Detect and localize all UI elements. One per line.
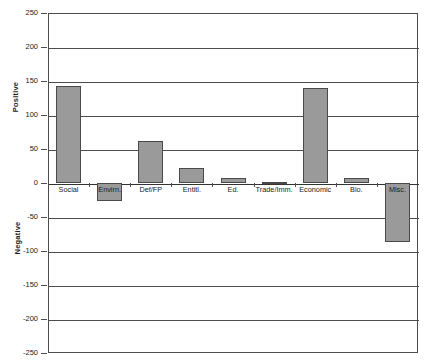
y-tick-label: -250: [0, 349, 38, 357]
x-tick-mark: [377, 183, 378, 187]
gridline: [49, 286, 419, 287]
category-label: Def/FP: [139, 185, 162, 194]
y-tick-label: 250: [0, 9, 38, 17]
y-tick-label: 50: [0, 145, 38, 153]
y-tick-label: -150: [0, 281, 38, 289]
category-label: Envirn.: [98, 185, 121, 194]
gridline: [49, 82, 419, 83]
gridline: [49, 150, 419, 151]
gridline: [49, 320, 419, 321]
category-label: Social: [59, 185, 79, 194]
y-tick-mark: [41, 319, 47, 320]
plot-area: [48, 13, 418, 353]
category-label: Entitl.: [183, 185, 201, 194]
category-label: Trade/Imm.: [256, 185, 293, 194]
y-tick-mark: [41, 217, 47, 218]
y-tick-label: 150: [0, 77, 38, 85]
x-tick-mark: [295, 183, 296, 187]
y-tick-label: 0: [0, 179, 38, 187]
y-tick-mark: [41, 47, 47, 48]
x-tick-mark: [89, 183, 90, 187]
y-tick-mark: [41, 81, 47, 82]
gridline: [49, 116, 419, 117]
category-label: Economic: [299, 185, 331, 194]
y-tick-label: -200: [0, 315, 38, 323]
category-label: Ed.: [228, 185, 239, 194]
category-label: Misc.: [389, 185, 406, 194]
x-tick-mark: [171, 183, 172, 187]
y-tick-mark: [41, 183, 47, 184]
category-label: Bio.: [350, 185, 363, 194]
y-tick-mark: [41, 251, 47, 252]
y-tick-mark: [41, 13, 47, 14]
gridline: [49, 252, 419, 253]
y-tick-mark: [41, 149, 47, 150]
x-tick-mark: [336, 183, 337, 187]
y-tick-label: -50: [0, 213, 38, 221]
y-tick-mark: [41, 285, 47, 286]
y-tick-mark: [41, 115, 47, 116]
x-tick-mark: [254, 183, 255, 187]
y-tick-label: 100: [0, 111, 38, 119]
x-tick-mark: [212, 183, 213, 187]
bar-chart: Positive Negative 250200150100500-50-100…: [0, 0, 429, 363]
gridline: [49, 218, 419, 219]
y-tick-mark: [41, 353, 47, 354]
x-tick-mark: [130, 183, 131, 187]
y-tick-label: 200: [0, 43, 38, 51]
y-tick-label: -100: [0, 247, 38, 255]
gridline: [49, 48, 419, 49]
